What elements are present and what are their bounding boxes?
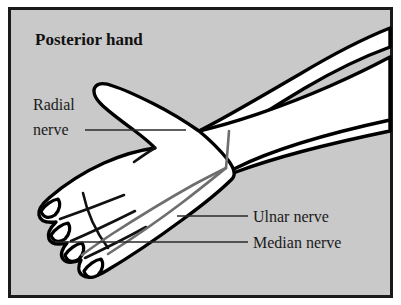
radial-label-line1: Radial bbox=[33, 96, 75, 113]
ulnar-label: Ulnar nerve bbox=[253, 208, 329, 225]
anatomy-figure: Posterior hand Radial nerve Ulnar nerve … bbox=[0, 0, 401, 305]
figure-title: Posterior hand bbox=[35, 30, 143, 49]
posterior-hand-diagram: Posterior hand Radial nerve Ulnar nerve … bbox=[0, 0, 401, 305]
median-label: Median nerve bbox=[253, 234, 341, 251]
radial-label-line2: nerve bbox=[33, 121, 69, 138]
